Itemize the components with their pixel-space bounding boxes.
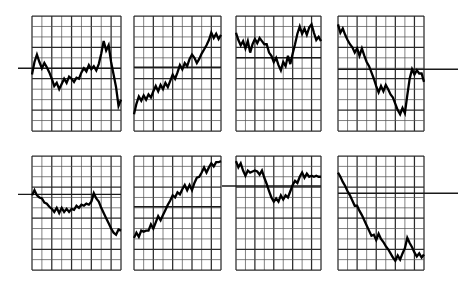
series-line <box>134 161 221 238</box>
panel-plot-area <box>324 152 458 274</box>
panel-grid <box>32 156 121 270</box>
panel-4-downtrend-with-rebound <box>324 12 458 135</box>
panel-plot-area <box>324 12 458 135</box>
series-line <box>32 41 121 106</box>
series-line <box>32 190 121 235</box>
panel-grid <box>134 156 221 270</box>
series-line <box>134 33 221 115</box>
series-line <box>236 161 321 201</box>
panel-grid <box>32 16 121 131</box>
panel-grid <box>338 156 424 270</box>
panel-8-steady-downtrend <box>324 152 458 274</box>
panel-grid <box>236 156 321 270</box>
series-line <box>338 173 424 261</box>
